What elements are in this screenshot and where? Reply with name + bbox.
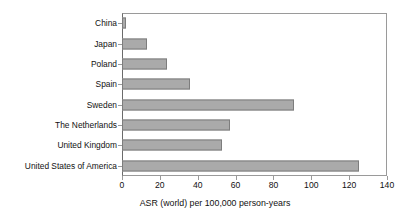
bar-track <box>122 120 230 131</box>
bar-track <box>122 18 126 29</box>
bar-row: The Netherlands <box>0 115 410 135</box>
bar-row: Japan <box>0 33 410 53</box>
bar-track <box>122 79 190 90</box>
bar <box>122 99 294 110</box>
bar <box>122 160 359 171</box>
category-label: China <box>95 19 117 27</box>
category-label: The Netherlands <box>55 121 117 129</box>
x-axis-title: ASR (world) per 100,000 person-years <box>0 198 410 208</box>
bar <box>122 140 222 151</box>
bar-row: China <box>0 13 410 33</box>
category-label: Sweden <box>87 100 117 108</box>
bar <box>122 79 190 90</box>
x-axis-tick-label: 0 <box>120 181 125 190</box>
x-axis-tick-label: 100 <box>304 181 318 190</box>
category-label: Spain <box>96 80 117 88</box>
bar-track <box>122 99 294 110</box>
bar-row: Sweden <box>0 95 410 115</box>
bar-row: United States of America <box>0 156 410 176</box>
category-label: United Kingdom <box>57 141 117 149</box>
bar-rows: ChinaJapanPolandSpainSwedenThe Netherlan… <box>0 13 410 176</box>
bar-track <box>122 38 147 49</box>
bar-row: United Kingdom <box>0 135 410 155</box>
bar-row: Spain <box>0 74 410 94</box>
bar-chart: ChinaJapanPolandSpainSwedenThe Netherlan… <box>0 0 410 222</box>
bar <box>122 58 167 69</box>
bar-track <box>122 160 359 171</box>
bar <box>122 38 147 49</box>
x-axis-tick-label: 20 <box>155 181 165 190</box>
bar-row: Poland <box>0 54 410 74</box>
bar <box>122 18 126 29</box>
x-axis-tick-label: 140 <box>380 181 394 190</box>
x-axis-tick-label: 120 <box>342 181 356 190</box>
bar-track <box>122 140 222 151</box>
x-axis-tick-label: 60 <box>231 181 241 190</box>
x-axis: 020406080100120140 <box>0 176 410 196</box>
x-axis-tick-label: 80 <box>269 181 279 190</box>
bar <box>122 120 230 131</box>
x-axis-tick-label: 40 <box>193 181 203 190</box>
bar-track <box>122 58 167 69</box>
category-label: Poland <box>91 60 117 68</box>
category-label: Japan <box>94 39 117 47</box>
category-label: United States of America <box>25 162 117 170</box>
